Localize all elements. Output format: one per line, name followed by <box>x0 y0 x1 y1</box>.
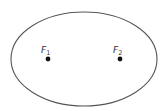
focus-2-subscript: 2 <box>118 49 122 57</box>
focus-1-label: F1 <box>41 45 50 57</box>
ellipse-diagram: F1 F2 <box>0 0 165 111</box>
focus-2-point <box>118 57 123 62</box>
focus-1-subscript: 1 <box>46 49 50 57</box>
ellipse-outline <box>11 12 157 106</box>
focus-1-point <box>46 57 51 62</box>
focus-2-label: F2 <box>113 45 122 57</box>
